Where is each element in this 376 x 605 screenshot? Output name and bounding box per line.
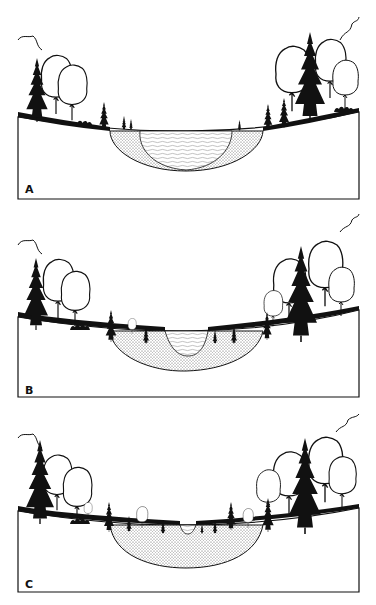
panel-label-a: A: [25, 183, 34, 196]
panel-label-b: B: [25, 384, 33, 397]
panel-a: A: [0, 0, 376, 200]
panel-b-illustration: [0, 200, 376, 400]
panel-a-illustration: [0, 0, 376, 200]
panel-b: B: [0, 200, 376, 400]
panel-c: C: [0, 400, 376, 605]
panel-label-c: C: [25, 578, 33, 591]
panel-c-illustration: [0, 400, 376, 605]
